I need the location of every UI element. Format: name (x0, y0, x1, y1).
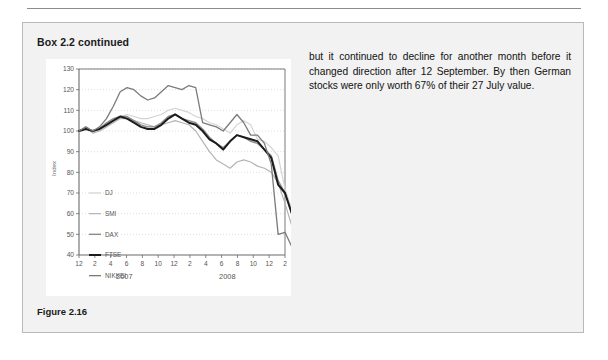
series-line-dax (79, 114, 291, 213)
legend-label: SMI (105, 210, 117, 217)
y-tick-label: 80 (67, 169, 75, 176)
x-tick-label: 10 (155, 260, 163, 267)
page-root: Box 2.2 continued but it continued to de… (0, 0, 608, 360)
y-tick-label: 40 (67, 251, 75, 258)
x-tick-label: 2 (283, 260, 287, 267)
y-tick-label: 50 (67, 231, 75, 238)
x-tick-label: 6 (125, 260, 129, 267)
y-tick-label: 130 (63, 65, 74, 72)
legend-label: DAX (105, 231, 119, 238)
x-tick-label: 12 (170, 260, 178, 267)
chart-panel: 4050607080901001101201301224681012246810… (46, 59, 291, 296)
legend-item-nikkei: NIKKEI (89, 272, 126, 279)
x-tick-label: 4 (109, 260, 113, 267)
figure-caption: Figure 2.16 (37, 306, 87, 317)
x-tick-label: 2 (93, 260, 97, 267)
legend-item-dj: DJ (89, 189, 113, 196)
page-top-rule (27, 8, 581, 9)
box-body-text: but it continued to decline for another … (309, 50, 571, 94)
x-tick-label: 2 (188, 260, 192, 267)
legend-item-ftse: FTSE (89, 251, 121, 258)
y-tick-label: 120 (63, 86, 74, 93)
y-tick-label: 70 (67, 189, 75, 196)
x-tick-label: 12 (265, 260, 273, 267)
box-container: Box 2.2 continued but it continued to de… (22, 22, 584, 333)
legend-label: FTSE (105, 251, 121, 258)
y-tick-label: 110 (63, 107, 74, 114)
x-tick-label: 8 (236, 260, 240, 267)
box-title: Box 2.2 continued (37, 36, 129, 48)
y-tick-label: 60 (67, 210, 75, 217)
line-chart: 4050607080901001101201301224681012246810… (46, 59, 291, 296)
x-tick-label: 6 (220, 260, 224, 267)
y-axis-title: Index (50, 160, 57, 176)
legend-label: NIKKEI (105, 272, 126, 279)
x-tick-label: 10 (250, 260, 258, 267)
legend-label: DJ (105, 189, 113, 196)
legend-item-smi: SMI (89, 210, 117, 217)
y-tick-label: 90 (67, 148, 75, 155)
x-axis-year-label: 2008 (219, 272, 235, 281)
x-tick-label: 8 (141, 260, 145, 267)
y-tick-label: 100 (63, 127, 74, 134)
x-tick-label: 4 (204, 260, 208, 267)
x-tick-label: 12 (75, 260, 83, 267)
series-line-ftse (79, 114, 291, 213)
